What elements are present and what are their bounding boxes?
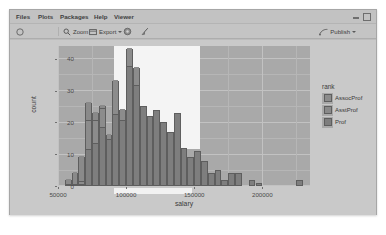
legend: rank AssocProfAsstProfProf bbox=[322, 83, 370, 128]
histogram-bar-segment bbox=[100, 109, 105, 128]
broom-icon bbox=[141, 27, 150, 36]
zoom-label: Zoom bbox=[73, 29, 88, 35]
histogram-bar[interactable] bbox=[194, 151, 201, 186]
histogram-bar-segment bbox=[100, 105, 105, 108]
legend-entries: AssocProfAsstProfProf bbox=[322, 92, 370, 128]
histogram-bar[interactable] bbox=[228, 173, 235, 186]
legend-key bbox=[322, 117, 333, 128]
chevron-down-icon[interactable] bbox=[352, 31, 356, 33]
export-button[interactable]: Export bbox=[89, 26, 122, 37]
menu-item-help[interactable]: Help bbox=[94, 12, 107, 22]
menu-item-files[interactable]: Files bbox=[16, 12, 30, 22]
histogram-bar[interactable] bbox=[208, 173, 215, 186]
legend-item: Prof bbox=[322, 116, 370, 128]
histogram-bar-segment bbox=[127, 48, 132, 67]
legend-title: rank bbox=[322, 83, 370, 90]
histogram-bar-segment bbox=[120, 109, 125, 122]
legend-swatch bbox=[324, 118, 332, 126]
histogram-bar[interactable] bbox=[235, 173, 242, 186]
histogram-bar[interactable] bbox=[249, 180, 256, 186]
histogram-bar-segment bbox=[113, 80, 118, 115]
clear-plots-button[interactable] bbox=[141, 26, 150, 37]
toolbar-separator bbox=[58, 27, 59, 36]
publish-label: Publish bbox=[330, 29, 350, 35]
legend-label: AsstProf bbox=[335, 107, 358, 113]
histogram-bar[interactable] bbox=[174, 113, 181, 186]
x-axis-tick-label: 50000 bbox=[33, 191, 83, 198]
histogram-bar[interactable] bbox=[119, 110, 126, 186]
histogram-bar[interactable] bbox=[85, 103, 92, 186]
histogram-bar[interactable] bbox=[92, 113, 99, 186]
histogram-bar[interactable] bbox=[215, 170, 222, 186]
histogram-bar-segment bbox=[93, 121, 98, 143]
legend-key bbox=[322, 93, 333, 104]
legend-key bbox=[322, 105, 333, 116]
menu-item-viewer[interactable]: Viewer bbox=[114, 12, 134, 22]
histogram-bar[interactable] bbox=[140, 106, 147, 186]
gear-icon bbox=[123, 27, 132, 36]
publish-icon bbox=[319, 28, 328, 36]
x-axis-tick-mark bbox=[194, 187, 195, 189]
publish-button[interactable]: Publish bbox=[319, 26, 356, 37]
menu-item-plots[interactable]: Plots bbox=[38, 12, 53, 22]
x-axis-tick-label: 100000 bbox=[101, 191, 151, 198]
x-axis-tick-mark bbox=[58, 187, 59, 189]
y-axis-tick-mark bbox=[55, 154, 57, 155]
histogram-bar[interactable] bbox=[201, 161, 208, 186]
plot-card: count salary 010203040 50000100000150000… bbox=[10, 40, 376, 215]
y-axis-tick-label: 30 bbox=[34, 87, 74, 94]
histogram-bar-segment bbox=[107, 134, 112, 140]
histogram-bar-segment bbox=[134, 67, 139, 86]
plot-canvas[interactable]: count salary 010203040 50000100000150000… bbox=[22, 41, 366, 213]
remove-plot-button[interactable] bbox=[123, 26, 132, 37]
gridline-vertical bbox=[262, 46, 263, 186]
back-arrow-icon[interactable] bbox=[16, 26, 24, 37]
x-axis-tick-mark bbox=[126, 187, 127, 189]
y-axis-tick-mark bbox=[55, 122, 57, 123]
maximize-icon[interactable] bbox=[363, 13, 371, 21]
histogram-bar[interactable] bbox=[99, 106, 106, 186]
y-axis-tick-label: 20 bbox=[34, 119, 74, 126]
legend-swatch bbox=[324, 94, 332, 102]
histogram-bar[interactable] bbox=[296, 180, 303, 186]
y-axis-tick-mark bbox=[55, 59, 57, 60]
histogram-bar[interactable] bbox=[112, 81, 119, 186]
histogram-bar[interactable] bbox=[106, 135, 113, 186]
histogram-bar-segment bbox=[93, 112, 98, 122]
menu-item-packages[interactable]: Packages bbox=[60, 12, 89, 22]
histogram-bar-segment bbox=[86, 102, 91, 121]
histogram-bar[interactable] bbox=[181, 148, 188, 186]
gridline-vertical bbox=[58, 46, 59, 186]
gridline-vertical-minor bbox=[296, 46, 297, 186]
histogram-bar[interactable] bbox=[256, 183, 263, 186]
export-label: Export bbox=[99, 29, 116, 35]
gridline-vertical-minor bbox=[228, 46, 229, 186]
chevron-down-icon[interactable] bbox=[118, 31, 122, 33]
x-axis-tick-mark bbox=[262, 187, 263, 189]
magnifier-icon bbox=[63, 28, 71, 36]
histogram-bar[interactable] bbox=[147, 116, 154, 186]
histogram-bar[interactable] bbox=[160, 122, 167, 186]
histogram-bar[interactable] bbox=[221, 180, 228, 186]
histogram-bar-segment bbox=[86, 121, 91, 150]
histogram-bar-segment bbox=[79, 182, 84, 185]
menu-bar: Files Plots Packages Help Viewer bbox=[10, 10, 376, 24]
export-icon bbox=[89, 28, 97, 36]
y-axis-tick-label: 0 bbox=[34, 183, 74, 190]
legend-item: AssocProf bbox=[322, 92, 370, 104]
histogram-bar[interactable] bbox=[153, 110, 160, 186]
histogram-bar[interactable] bbox=[126, 49, 133, 186]
histogram-bar[interactable] bbox=[78, 157, 85, 186]
histogram-bar[interactable] bbox=[167, 132, 174, 186]
y-axis-tick-label: 10 bbox=[34, 151, 74, 158]
legend-label: AssocProf bbox=[335, 95, 362, 101]
zoom-button[interactable]: Zoom bbox=[63, 26, 88, 37]
rstudio-plots-pane: Files Plots Packages Help Viewer Zoom Ex… bbox=[9, 9, 377, 215]
y-axis-tick-mark bbox=[55, 186, 57, 187]
legend-item: AsstProf bbox=[322, 104, 370, 116]
histogram-bar[interactable] bbox=[133, 68, 140, 186]
chart-panel bbox=[58, 46, 310, 186]
x-axis-label: salary bbox=[58, 200, 310, 207]
minimize-icon[interactable] bbox=[353, 17, 359, 19]
histogram-bar[interactable] bbox=[187, 157, 194, 186]
